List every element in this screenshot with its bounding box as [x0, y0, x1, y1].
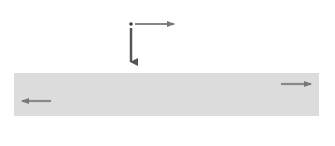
wire-band: [14, 73, 319, 116]
magnetic-force-arrow: [0, 0, 131, 62]
magnetic-field-diagram: [0, 0, 335, 146]
charge-q: [129, 22, 133, 26]
